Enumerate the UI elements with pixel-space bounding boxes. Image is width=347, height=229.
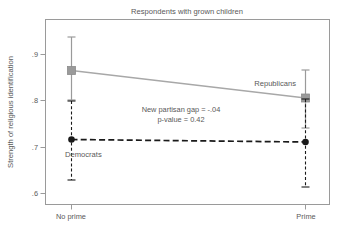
series-label-democrats: Democrats bbox=[65, 150, 102, 159]
x-tick-label-no-prime: No prime bbox=[56, 212, 86, 221]
y-axis-ticks: .9 .8 .7 .6 bbox=[32, 50, 46, 198]
chart-title: Respondents with grown children bbox=[131, 7, 243, 16]
y-axis-title: Strength of religious identification bbox=[6, 56, 15, 168]
y-tick-label: .7 bbox=[32, 143, 38, 152]
marker-democrats-no-prime bbox=[68, 136, 75, 143]
y-tick-label: .8 bbox=[32, 96, 38, 105]
annotation-partisan-gap: New partisan gap = -.04 bbox=[142, 105, 221, 114]
x-axis-ticks: No prime Prime bbox=[56, 205, 316, 222]
chart-figure: Respondents with grown children Strength… bbox=[0, 0, 347, 229]
y-tick-label: .9 bbox=[32, 50, 38, 59]
chart-canvas: Respondents with grown children Strength… bbox=[0, 0, 347, 229]
marker-republicans-no-prime bbox=[68, 67, 76, 75]
marker-democrats-prime bbox=[302, 139, 309, 146]
y-tick-label: .6 bbox=[32, 189, 38, 198]
x-tick-label-prime: Prime bbox=[296, 212, 315, 221]
series-label-republicans: Republicans bbox=[254, 79, 296, 88]
annotation-p-value: p-value = 0.42 bbox=[157, 115, 204, 124]
